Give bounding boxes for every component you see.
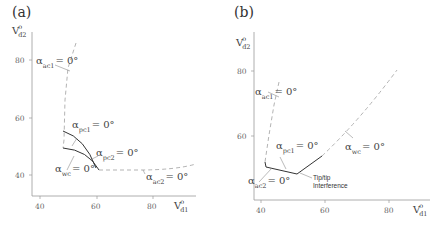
x-tick-80: 80 (147, 202, 157, 211)
y-tick-80: 80 (237, 67, 247, 76)
panel-a-label: (a) (12, 4, 31, 20)
y-tick-60: 60 (15, 114, 25, 123)
x-tick-40: 40 (256, 206, 266, 215)
annotation-ac2: αac2= 0° (146, 171, 188, 186)
annotation-wc: αwc= 0° (345, 141, 385, 156)
x-tick-60: 60 (320, 206, 330, 215)
note-interference: Interference (313, 182, 348, 189)
curve-ac2 (99, 164, 196, 170)
annotation-wc: αwc= 0° (55, 163, 95, 178)
panel-a: (a) 80 60 40 40 60 80 Vod2 Vod1 αac1= (11, 4, 196, 214)
annotation-ac2: αac2= 0° (248, 175, 290, 190)
curve-wc (322, 70, 397, 156)
annotation-pc1: αpc1= 0° (72, 119, 115, 134)
y-axis-label: Vod2 (235, 35, 250, 51)
x-axis-label: Vod1 (173, 198, 188, 214)
panel-b-label: (b) (234, 4, 254, 20)
curve-interference (297, 156, 322, 174)
x-axis-label: Vod1 (412, 202, 427, 218)
annotation-pc2: αpc2= 0° (96, 147, 139, 162)
annotation-ac1: αac1= 0° (36, 55, 78, 70)
x-tick-80: 80 (384, 206, 394, 215)
x-tick-40: 40 (35, 202, 45, 211)
y-tick-60: 60 (237, 132, 247, 141)
curve-pc1 (265, 162, 297, 174)
annotation-pc1: αpc1= 0° (276, 140, 319, 155)
diagram-canvas: (a) 80 60 40 40 60 80 Vod2 Vod1 αac1= (0, 0, 445, 226)
note-tip-tip: Tip/tip (313, 174, 331, 182)
y-tick-80: 80 (15, 56, 25, 65)
y-tick-40: 40 (15, 171, 25, 180)
annotation-ac1: αac1= 0° (255, 86, 297, 101)
panel-b: (b) 80 60 40 60 80 Vod2 Vod1 αac1= 0° αp… (234, 4, 430, 218)
y-axis-label: Vod2 (11, 23, 26, 39)
x-tick-60: 60 (91, 202, 101, 211)
